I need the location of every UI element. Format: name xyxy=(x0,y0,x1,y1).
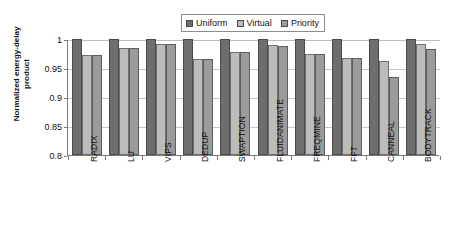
legend-item-uniform: Uniform xyxy=(186,19,228,28)
x-axis-tick-mark xyxy=(403,156,404,160)
x-axis-label-freqmine: FREQMINE xyxy=(313,116,322,162)
legend-swatch-virtual xyxy=(237,20,244,27)
bar-uniform-dedup xyxy=(183,39,193,155)
x-axis-label-radix: RADIX xyxy=(90,136,99,162)
x-axis-label-swaption: SWAPTION xyxy=(238,116,247,162)
legend-swatch-priority xyxy=(281,20,288,27)
bar-priority-lu xyxy=(129,48,139,155)
y-axis-tick-label: 0.85 xyxy=(38,123,62,132)
bar-group xyxy=(254,39,291,155)
bar-group xyxy=(328,39,365,155)
legend-swatch-uniform xyxy=(186,20,193,27)
x-axis-tick-mark xyxy=(440,156,441,160)
legend-label-uniform: Uniform xyxy=(196,19,228,28)
bar-uniform-bodytrack xyxy=(406,39,416,155)
bar-virtual-vips xyxy=(156,44,166,155)
bar-uniform-swaption xyxy=(220,39,230,155)
chart-legend: Uniform Virtual Priority xyxy=(181,14,325,32)
bar-group xyxy=(105,39,142,155)
x-axis-label-canneal: CANNEAL xyxy=(387,121,396,162)
bar-uniform-freqmine xyxy=(295,39,305,155)
bar-priority-vips xyxy=(166,44,176,155)
x-axis-tick-mark xyxy=(366,156,367,160)
y-axis-tick-label: 0.9 xyxy=(38,94,62,103)
bar-group xyxy=(142,39,179,155)
bar-priority-fft xyxy=(352,58,362,155)
x-axis-label-lu: LU xyxy=(127,151,136,162)
bar-group xyxy=(217,39,254,155)
x-axis-tick-mark xyxy=(217,156,218,160)
bar-group xyxy=(68,39,105,155)
x-axis-tick-mark xyxy=(105,156,106,160)
bar-group xyxy=(366,39,403,155)
x-axis-label-fluidanimate: FLUIDANIMATE xyxy=(276,99,285,162)
legend-item-priority: Priority xyxy=(281,19,319,28)
bar-virtual-lu xyxy=(119,48,129,155)
x-axis-tick-mark xyxy=(180,156,181,160)
legend-item-virtual: Virtual xyxy=(237,19,272,28)
bar-group xyxy=(403,39,440,155)
y-axis-tick-label: 0.8 xyxy=(38,152,62,161)
bar-group xyxy=(291,39,328,155)
x-axis-tick-mark xyxy=(328,156,329,160)
bar-group xyxy=(180,39,217,155)
y-axis-title: Normalized energy-delay product xyxy=(12,14,32,134)
bar-uniform-lu xyxy=(109,39,119,155)
x-axis-tick-mark xyxy=(254,156,255,160)
x-axis-tick-mark xyxy=(68,156,69,160)
y-axis-tick-mark xyxy=(64,156,67,157)
bar-uniform-fluidanimate xyxy=(258,39,268,155)
x-axis-label-bodytrack: BODYTRACK xyxy=(424,108,433,162)
x-axis-label-fft: FFT xyxy=(350,146,359,162)
legend-label-priority: Priority xyxy=(291,19,319,28)
bar-uniform-vips xyxy=(146,39,156,155)
x-axis-tick-mark xyxy=(291,156,292,160)
x-axis-tick-mark xyxy=(142,156,143,160)
bar-uniform-fft xyxy=(332,39,342,155)
bar-uniform-canneal xyxy=(369,39,379,155)
bar-uniform-radix xyxy=(72,39,82,155)
y-axis-tick-label: 0.95 xyxy=(38,65,62,74)
bar-virtual-fft xyxy=(342,58,352,155)
y-axis-tick-label: 1 xyxy=(38,36,62,45)
legend-label-virtual: Virtual xyxy=(247,19,272,28)
x-axis-label-dedup: DEDUP xyxy=(201,132,210,162)
plot-area xyxy=(67,40,439,156)
chart-figure: Uniform Virtual Priority Normalized ener… xyxy=(0,0,450,244)
x-axis-label-vips: VIPS xyxy=(164,142,173,162)
